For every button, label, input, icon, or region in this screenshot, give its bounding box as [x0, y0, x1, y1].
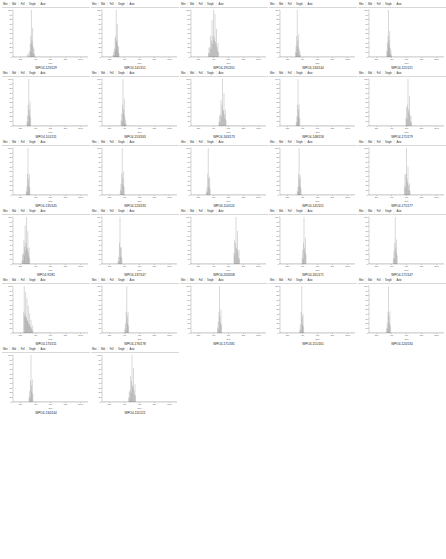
toolbar-item-single[interactable]: Single: [118, 210, 125, 213]
toolbar-item-mid[interactable]: Mid: [368, 3, 372, 6]
spectrum-panel[interactable]: Mini|Mid|Full|Single|Auto010203040506070…: [91, 2, 179, 71]
toolbar-item-auto[interactable]: Auto: [129, 72, 134, 75]
spectrum-plot[interactable]: 01020304050607080901002004006008001000m/…: [358, 8, 446, 65]
toolbar-item-mini[interactable]: Mini: [270, 141, 274, 144]
spectrum-panel[interactable]: Mini|Mid|Full|Single|Auto010203040506070…: [358, 140, 446, 209]
spectrum-panel[interactable]: Mini|Mid|Full|Single|Auto010203040506070…: [269, 71, 357, 140]
toolbar-item-mid[interactable]: Mid: [190, 279, 194, 282]
toolbar-item-mini[interactable]: Mini: [3, 72, 7, 75]
toolbar-item-mini[interactable]: Mini: [92, 3, 96, 6]
spectrum-panel[interactable]: Mini|Mid|Full|Single|Auto010203040506070…: [269, 2, 357, 71]
toolbar-item-single[interactable]: Single: [385, 141, 392, 144]
spectrum-panel[interactable]: Mini|Mid|Full|Single|Auto010203040506070…: [91, 71, 179, 140]
toolbar-item-single[interactable]: Single: [29, 279, 36, 282]
toolbar-item-single[interactable]: Single: [296, 3, 303, 6]
toolbar-item-auto[interactable]: Auto: [129, 3, 134, 6]
toolbar-item-mid[interactable]: Mid: [279, 210, 283, 213]
toolbar-item-mid[interactable]: Mid: [279, 3, 283, 6]
spectrum-plot[interactable]: 01020304050607080901002004006008001000m/…: [180, 215, 268, 272]
toolbar-item-mini[interactable]: Mini: [359, 210, 363, 213]
spectrum-plot[interactable]: 01020304050607080901002004006008001000m/…: [180, 146, 268, 203]
toolbar-item-auto[interactable]: Auto: [307, 210, 312, 213]
toolbar-item-mid[interactable]: Mid: [101, 279, 105, 282]
toolbar-item-mid[interactable]: Mid: [101, 72, 105, 75]
toolbar-item-single[interactable]: Single: [385, 210, 392, 213]
toolbar-item-full[interactable]: Full: [21, 3, 25, 6]
toolbar-item-full[interactable]: Full: [377, 141, 381, 144]
toolbar-item-auto[interactable]: Auto: [40, 210, 45, 213]
spectrum-plot[interactable]: 01020304050607080901002004006008001000m/…: [91, 146, 179, 203]
toolbar-item-full[interactable]: Full: [110, 141, 114, 144]
toolbar-item-mid[interactable]: Mid: [12, 348, 16, 351]
spectrum-panel[interactable]: Mini|Mid|Full|Single|Auto010203040506070…: [180, 209, 268, 278]
toolbar-item-mini[interactable]: Mini: [270, 3, 274, 6]
spectrum-plot[interactable]: 01020304050607080901002004006008001000m/…: [180, 8, 268, 65]
toolbar-item-auto[interactable]: Auto: [307, 279, 312, 282]
toolbar-item-full[interactable]: Full: [110, 210, 114, 213]
spectrum-plot[interactable]: 01020304050607080901002004006008001000m/…: [91, 77, 179, 134]
toolbar-item-mid[interactable]: Mid: [101, 210, 105, 213]
toolbar-item-mini[interactable]: Mini: [3, 348, 7, 351]
toolbar-item-mid[interactable]: Mid: [12, 3, 16, 6]
toolbar-item-single[interactable]: Single: [296, 279, 303, 282]
toolbar-item-full[interactable]: Full: [288, 72, 292, 75]
spectrum-panel[interactable]: Mini|Mid|Full|Single|Auto010203040506070…: [269, 140, 357, 209]
toolbar-item-mid[interactable]: Mid: [12, 141, 16, 144]
spectrum-plot[interactable]: 01020304050607080901002004006008001000m/…: [91, 8, 179, 65]
toolbar-item-full[interactable]: Full: [199, 3, 203, 6]
toolbar-item-single[interactable]: Single: [207, 210, 214, 213]
toolbar-item-full[interactable]: Full: [21, 72, 25, 75]
toolbar-item-mid[interactable]: Mid: [190, 72, 194, 75]
toolbar-item-mini[interactable]: Mini: [270, 72, 274, 75]
spectrum-plot[interactable]: 01020304050607080901002004006008001000m/…: [91, 284, 179, 341]
spectrum-panel[interactable]: Mini|Mid|Full|Single|Auto010203040506070…: [2, 2, 90, 71]
toolbar-item-mid[interactable]: Mid: [12, 72, 16, 75]
toolbar-item-auto[interactable]: Auto: [218, 210, 223, 213]
toolbar-item-mid[interactable]: Mid: [12, 210, 16, 213]
spectrum-plot[interactable]: 01020304050607080901002004006008001000m/…: [2, 215, 90, 272]
toolbar-item-mid[interactable]: Mid: [368, 279, 372, 282]
toolbar-item-single[interactable]: Single: [118, 141, 125, 144]
toolbar-item-mid[interactable]: Mid: [279, 72, 283, 75]
toolbar-item-full[interactable]: Full: [199, 210, 203, 213]
toolbar-item-full[interactable]: Full: [199, 279, 203, 282]
toolbar-item-auto[interactable]: Auto: [396, 210, 401, 213]
toolbar-item-auto[interactable]: Auto: [396, 141, 401, 144]
toolbar-item-mid[interactable]: Mid: [101, 348, 105, 351]
spectrum-panel[interactable]: Mini|Mid|Full|Single|Auto010203040506070…: [180, 71, 268, 140]
spectrum-panel[interactable]: Mini|Mid|Full|Single|Auto010203040506070…: [2, 71, 90, 140]
toolbar-item-single[interactable]: Single: [207, 3, 214, 6]
toolbar-item-auto[interactable]: Auto: [307, 141, 312, 144]
toolbar-item-mini[interactable]: Mini: [3, 210, 7, 213]
toolbar-item-mini[interactable]: Mini: [3, 279, 7, 282]
toolbar-item-mid[interactable]: Mid: [368, 141, 372, 144]
toolbar-item-full[interactable]: Full: [110, 3, 114, 6]
toolbar-item-single[interactable]: Single: [118, 348, 125, 351]
toolbar-item-mini[interactable]: Mini: [3, 3, 7, 6]
toolbar-item-mini[interactable]: Mini: [181, 3, 185, 6]
spectrum-panel[interactable]: Mini|Mid|Full|Single|Auto010203040506070…: [269, 278, 357, 347]
toolbar-item-single[interactable]: Single: [118, 279, 125, 282]
toolbar-item-mid[interactable]: Mid: [101, 141, 105, 144]
spectrum-plot[interactable]: 01020304050607080901002004006008001000m/…: [2, 284, 90, 341]
toolbar-item-mid[interactable]: Mid: [368, 72, 372, 75]
toolbar-item-auto[interactable]: Auto: [40, 72, 45, 75]
toolbar-item-auto[interactable]: Auto: [307, 72, 312, 75]
toolbar-item-full[interactable]: Full: [288, 210, 292, 213]
toolbar-item-auto[interactable]: Auto: [129, 348, 134, 351]
toolbar-item-mid[interactable]: Mid: [190, 141, 194, 144]
toolbar-item-auto[interactable]: Auto: [218, 141, 223, 144]
spectrum-panel[interactable]: Mini|Mid|Full|Single|Auto010203040506070…: [180, 140, 268, 209]
toolbar-item-full[interactable]: Full: [377, 279, 381, 282]
toolbar-item-full[interactable]: Full: [21, 141, 25, 144]
toolbar-item-full[interactable]: Full: [110, 279, 114, 282]
spectrum-plot[interactable]: 01020304050607080901002004006008001000m/…: [358, 146, 446, 203]
spectrum-plot[interactable]: 01020304050607080901002004006008001000m/…: [2, 353, 90, 410]
toolbar-item-full[interactable]: Full: [377, 3, 381, 6]
toolbar-item-full[interactable]: Full: [21, 279, 25, 282]
spectrum-plot[interactable]: 01020304050607080901002004006008001000m/…: [91, 215, 179, 272]
spectrum-plot[interactable]: 01020304050607080901002004006008001000m/…: [358, 215, 446, 272]
toolbar-item-mini[interactable]: Mini: [359, 141, 363, 144]
toolbar-item-full[interactable]: Full: [288, 279, 292, 282]
spectrum-panel[interactable]: Mini|Mid|Full|Single|Auto010203040506070…: [358, 71, 446, 140]
